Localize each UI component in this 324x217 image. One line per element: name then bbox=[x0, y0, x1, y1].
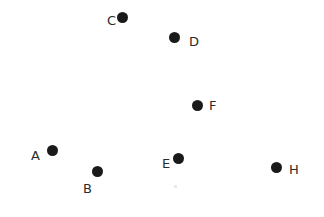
point-label-e: E bbox=[162, 157, 170, 170]
point-marker-e[interactable] bbox=[173, 153, 184, 164]
scatter-plot-canvas: ABCDEFH bbox=[0, 0, 324, 217]
point-marker-f[interactable] bbox=[192, 100, 203, 111]
background-speck bbox=[174, 185, 177, 188]
point-label-h: H bbox=[289, 163, 299, 176]
point-label-b: B bbox=[83, 182, 92, 195]
point-label-a: A bbox=[31, 149, 40, 162]
point-marker-d[interactable] bbox=[169, 32, 180, 43]
point-marker-b[interactable] bbox=[92, 166, 103, 177]
point-marker-h[interactable] bbox=[271, 162, 282, 173]
point-label-d: D bbox=[189, 35, 199, 48]
point-marker-a[interactable] bbox=[47, 145, 58, 156]
point-marker-c[interactable] bbox=[117, 12, 128, 23]
point-label-f: F bbox=[209, 99, 216, 112]
point-label-c: C bbox=[107, 14, 116, 27]
